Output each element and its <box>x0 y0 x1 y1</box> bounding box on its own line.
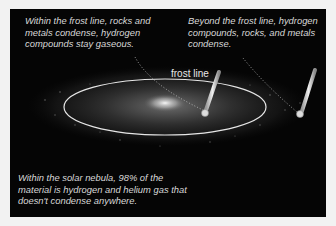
frost-line-label: frost line <box>171 68 209 79</box>
caption-beyond-frost-line: Beyond the frost line, hydrogen compound… <box>188 15 328 50</box>
sun-glow <box>143 94 187 112</box>
caption-solar-nebula: Within the solar nebula, 98% of the mate… <box>18 172 188 207</box>
caption-inside-frost-line: Within the frost line, rocks and metals … <box>25 15 175 50</box>
